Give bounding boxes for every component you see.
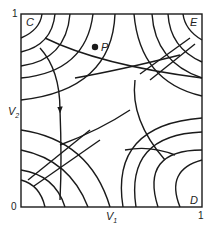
point-label-p: P bbox=[101, 42, 108, 53]
y-tick-1: 1 bbox=[12, 9, 18, 19]
x-axis-label: V1 bbox=[106, 211, 117, 224]
point-p-marker bbox=[92, 44, 98, 50]
plot-frame bbox=[21, 14, 202, 207]
y-tick-0: 0 bbox=[11, 202, 17, 212]
corner-label-e: E bbox=[190, 17, 197, 28]
corner-label-d: D bbox=[190, 195, 198, 206]
corner-label-c: C bbox=[26, 17, 34, 28]
y-axis-label: V2 bbox=[8, 106, 19, 119]
phase-diagram bbox=[0, 0, 216, 234]
x-tick-1: 1 bbox=[198, 211, 204, 221]
